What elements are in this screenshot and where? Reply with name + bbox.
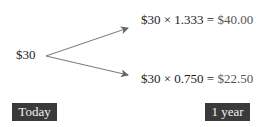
up-result: $40.00 [217,12,253,27]
up-formula: $30 × 1.333 = [141,12,217,27]
start-value: $30 [16,47,36,63]
down-arrow [46,56,128,75]
up-arrow [46,28,128,56]
up-outcome: $30 × 1.333 = $40.00 [141,12,253,28]
down-result: $22.50 [217,71,253,86]
today-label: Today [12,103,57,121]
down-formula: $30 × 0.750 = [141,71,217,86]
down-outcome: $30 × 0.750 = $22.50 [141,71,253,87]
one-year-label: 1 year [205,103,250,121]
